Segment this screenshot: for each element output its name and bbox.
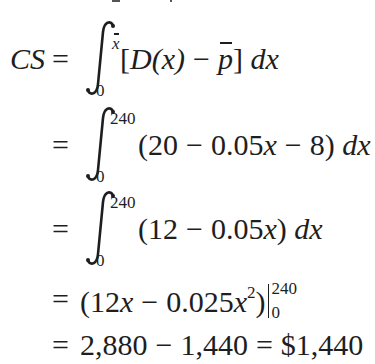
demand-function: D(x) [130, 42, 185, 75]
equilibrium-price-pbar: p [218, 44, 233, 74]
upper-limit: 240 [110, 194, 136, 211]
term: (12 [138, 212, 178, 245]
term: (12 [80, 285, 120, 318]
minus-sign: − [141, 285, 158, 318]
equals-sign: = [52, 214, 69, 244]
close-paren: ) [256, 285, 266, 318]
variable-x: x [120, 285, 133, 318]
variable-x: x [263, 128, 276, 161]
lower-value: 1,440 [180, 328, 248, 361]
integrand: (12−0.05x) dx [138, 214, 323, 244]
final-answer: $1,440 [281, 328, 364, 361]
close-paren: ) [277, 212, 287, 245]
open-bracket: [ [120, 42, 130, 75]
cropped-previous-line-mark [112, 0, 120, 2]
upper-limit-xbar: x [112, 35, 120, 52]
minus-sign: − [285, 128, 302, 161]
lower-limit: 0 [96, 252, 105, 269]
evaluation-bar: 2400 [266, 284, 278, 320]
minus-sign: − [156, 328, 173, 361]
eval-lower-limit: 0 [272, 304, 281, 321]
numeric-result: 2,880−1,440=$1,440 [80, 330, 363, 360]
integrand: [D(x)−p] dx [120, 44, 279, 74]
differential: dx [250, 42, 278, 75]
vertical-bar [268, 284, 270, 318]
eval-upper-limit: 240 [272, 280, 298, 297]
integrand: (20−0.05x−8) dx [138, 130, 371, 160]
exponent: 2 [247, 283, 256, 302]
minus-sign: − [186, 128, 203, 161]
lhs-cs: CS [10, 44, 45, 74]
coefficient: 0.05 [211, 128, 264, 161]
antiderivative: (12x−0.025x2)2400 [80, 284, 278, 320]
variable-x: x [234, 285, 247, 318]
upper-value: 2,880 [80, 328, 148, 361]
equals-sign: = [52, 330, 69, 360]
minus-sign: − [193, 42, 210, 75]
equals-sign: = [256, 328, 273, 361]
differential: dx [342, 128, 370, 161]
equals-sign: = [52, 130, 69, 160]
coefficient: 0.025 [166, 285, 234, 318]
equals-sign: = [52, 44, 69, 74]
close-bracket: ] [233, 42, 243, 75]
variable-x: x [263, 212, 276, 245]
differential: dx [294, 212, 322, 245]
lower-limit: 0 [96, 82, 105, 99]
term: (20 [138, 128, 178, 161]
term: 8) [310, 128, 335, 161]
upper-limit: 240 [110, 110, 136, 127]
coefficient: 0.05 [211, 212, 264, 245]
equals-sign: = [52, 284, 69, 314]
equation-line-1: CS = x 0 [D(x)−p] dx [0, 40, 8, 70]
minus-sign: − [186, 212, 203, 245]
lower-limit: 0 [96, 168, 105, 185]
cropped-previous-line-mark [170, 0, 172, 2]
